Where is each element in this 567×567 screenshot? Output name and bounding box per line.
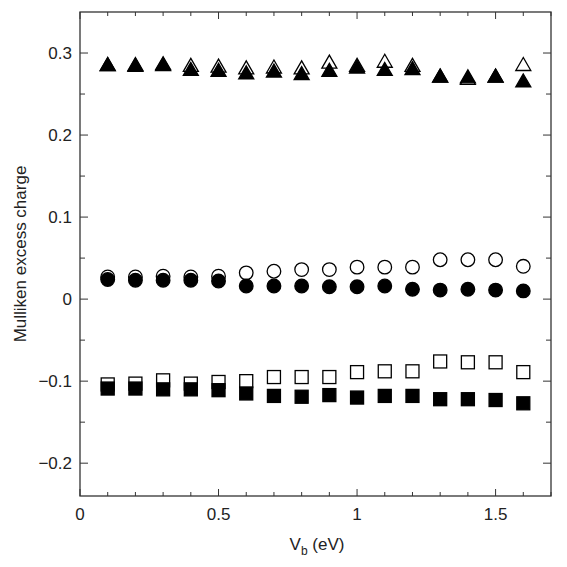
filled-triangle-marker	[100, 58, 115, 71]
filled-circle-marker	[295, 279, 309, 293]
filled-square-marker	[434, 393, 447, 406]
open-square-marker	[378, 365, 391, 378]
filled-circle-marker	[212, 274, 226, 288]
x-axis-label-main: V	[290, 535, 302, 554]
y-axis-label: Mulliken excess charge	[11, 166, 30, 343]
filled-square-marker	[323, 389, 336, 402]
x-tick-label: 1.5	[484, 505, 508, 524]
filled-square-marker	[267, 389, 280, 402]
filled-circle-marker	[406, 282, 420, 296]
y-tick-label: −0.1	[38, 372, 72, 391]
open-triangle-marker	[516, 58, 531, 71]
open-circle-marker	[433, 253, 447, 267]
y-tick-label: 0.1	[48, 208, 72, 227]
filled-circle-marker	[461, 282, 475, 296]
open-circle-marker	[239, 266, 253, 280]
open-square-marker	[351, 366, 364, 379]
open-square-marker	[461, 356, 474, 369]
filled-circle-marker	[267, 279, 281, 293]
filled-square-marker	[212, 384, 225, 397]
y-tick-label: 0	[63, 290, 72, 309]
series-circle-filled	[101, 273, 530, 298]
filled-triangle-marker	[156, 58, 171, 71]
open-square-marker	[517, 366, 530, 379]
filled-circle-marker	[239, 279, 253, 293]
open-square-marker	[267, 371, 280, 384]
filled-circle-marker	[323, 280, 337, 294]
filled-circle-marker	[184, 273, 198, 287]
series-square-filled	[101, 382, 530, 410]
open-circle-marker	[295, 263, 309, 277]
open-circle-marker	[461, 253, 475, 267]
filled-square-marker	[351, 391, 364, 404]
filled-square-marker	[101, 382, 114, 395]
plot-frame	[80, 12, 551, 496]
x-tick-label: 1	[352, 505, 361, 524]
open-square-marker	[406, 365, 419, 378]
filled-square-marker	[157, 383, 170, 396]
open-square-marker	[323, 371, 336, 384]
open-circle-marker	[378, 260, 392, 274]
filled-square-marker	[517, 397, 530, 410]
filled-square-marker	[184, 383, 197, 396]
filled-circle-marker	[433, 283, 447, 297]
filled-circle-marker	[129, 273, 143, 287]
open-circle-marker	[323, 263, 337, 277]
filled-circle-marker	[378, 279, 392, 293]
filled-triangle-marker	[516, 74, 531, 87]
filled-square-marker	[378, 389, 391, 402]
filled-circle-marker	[516, 284, 530, 298]
open-square-marker	[434, 355, 447, 368]
filled-triangle-marker	[128, 58, 143, 71]
filled-circle-marker	[156, 273, 170, 287]
filled-circle-marker	[489, 283, 503, 297]
scatter-chart: 00.511.5−0.2−0.100.10.20.3 Mulliken exce…	[0, 0, 567, 567]
filled-square-marker	[129, 382, 142, 395]
filled-square-marker	[461, 393, 474, 406]
filled-circle-marker	[350, 280, 364, 294]
open-square-marker	[489, 356, 502, 369]
x-axis-label: Vb (eV)	[290, 535, 345, 558]
x-axis-label-unit: (eV)	[308, 535, 345, 554]
open-circle-marker	[406, 260, 420, 274]
open-square-marker	[240, 375, 253, 388]
filled-triangle-marker	[460, 70, 475, 83]
filled-triangle-marker	[488, 69, 503, 82]
y-tick-label: −0.2	[38, 454, 72, 473]
filled-square-marker	[406, 389, 419, 402]
filled-square-marker	[489, 394, 502, 407]
open-circle-marker	[489, 253, 503, 267]
x-tick-label: 0.5	[207, 505, 231, 524]
y-tick-label: 0.3	[48, 44, 72, 63]
series-triangle-filled	[100, 58, 531, 87]
y-tick-label: 0.2	[48, 126, 72, 145]
open-circle-marker	[350, 260, 364, 274]
filled-circle-marker	[101, 273, 115, 287]
filled-triangle-marker	[433, 69, 448, 82]
open-circle-marker	[267, 264, 281, 278]
filled-square-marker	[240, 387, 253, 400]
x-tick-label: 0	[75, 505, 84, 524]
data-points	[100, 54, 531, 410]
filled-square-marker	[295, 390, 308, 403]
open-circle-marker	[516, 260, 530, 274]
open-square-marker	[295, 371, 308, 384]
